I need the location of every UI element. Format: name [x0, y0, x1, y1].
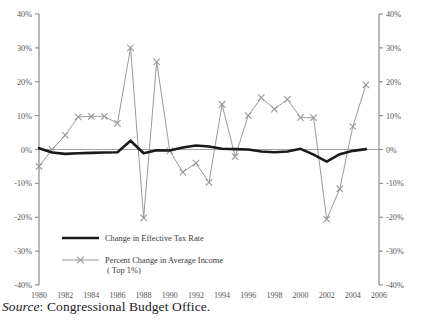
y-axis-label-left: 20% [17, 78, 32, 87]
data-point-marker [271, 106, 277, 112]
x-axis-label: 2000 [293, 291, 309, 300]
y-axis-label-right: -10% [386, 179, 404, 188]
y-axis-label-left: -10% [14, 179, 32, 188]
data-point-marker [193, 160, 199, 166]
x-axis-label: 2002 [319, 291, 335, 300]
x-axis-label: 1994 [214, 291, 230, 300]
y-axis-label-right: 20% [386, 78, 401, 87]
y-axis-label-left: -40% [14, 281, 32, 290]
data-point-marker [284, 96, 290, 102]
y-axis-label-right: -30% [386, 247, 404, 256]
y-axis-label-left: 30% [17, 44, 32, 53]
x-axis-label: 1998 [266, 291, 282, 300]
x-axis-label: 1996 [240, 291, 256, 300]
y-axis-label-right: 30% [386, 44, 401, 53]
chart-plot-area: 40%40%30%30%20%20%10%10%0%0%-10%-10%-20%… [0, 0, 424, 300]
data-point-marker [62, 132, 68, 138]
source-text: Congressional Budget Office. [47, 299, 210, 314]
y-axis-label-left: 40% [17, 10, 32, 19]
y-axis-label-right: 10% [386, 112, 401, 121]
data-series-group [36, 45, 369, 223]
chart-figure: 40%40%30%30%20%20%10%10%0%0%-10%-10%-20%… [0, 0, 424, 321]
chart-legend: Change in Effective Tax RatePercent Chan… [62, 234, 223, 275]
y-axis-label-right: -20% [386, 213, 404, 222]
y-axis-label-right: 40% [386, 10, 401, 19]
y-axis-label-right: -40% [386, 281, 404, 290]
y-axis-label-left: 0% [21, 146, 32, 155]
y-axis-label-right: 0% [386, 146, 397, 155]
x-axis-label: 2006 [371, 291, 387, 300]
data-point-marker [245, 112, 251, 118]
source-caption: Source: Congressional Budget Office. [2, 299, 210, 315]
y-axis-label-left: -20% [14, 213, 32, 222]
source-label: Source [2, 299, 40, 314]
legend-label-tax-rate: Change in Effective Tax Rate [105, 234, 204, 243]
series-line-income [39, 48, 366, 219]
data-point-marker [232, 153, 238, 159]
data-point-marker [258, 94, 264, 100]
data-point-marker [180, 169, 186, 175]
legend-sublabel-income: ( Top 1%) [107, 266, 141, 275]
source-separator: : [40, 299, 44, 314]
x-axis-label: 2004 [345, 291, 361, 300]
y-axis-label-left: 10% [17, 112, 32, 121]
line-chart-svg: 40%40%30%30%20%20%10%10%0%0%-10%-10%-20%… [0, 0, 424, 300]
legend-label-income: Percent Change in Average Income [105, 256, 223, 265]
data-point-marker [363, 82, 369, 88]
y-axis-label-left: -30% [14, 247, 32, 256]
